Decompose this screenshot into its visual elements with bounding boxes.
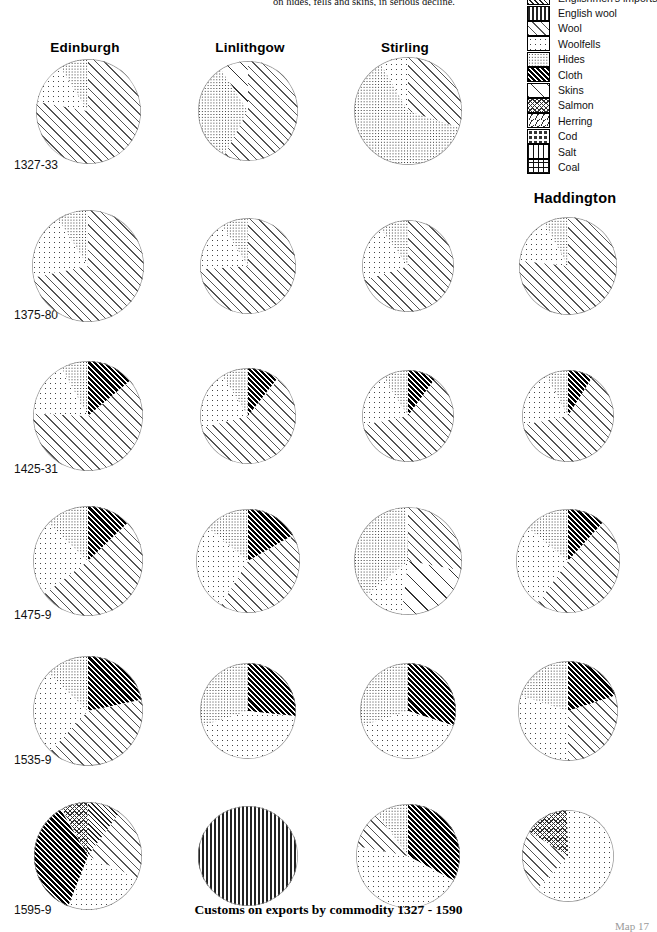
pie-outline: [198, 806, 298, 906]
legend-label: Cod: [558, 130, 577, 142]
legend-item: Salt: [527, 144, 657, 159]
legend-item: Skins: [527, 82, 657, 97]
partial-body-text: on hides, fells and skins, in serious de…: [184, 0, 544, 6]
pie-chart-haddington-1535-9: [518, 661, 618, 761]
legend-swatch-hides-icon: [527, 52, 550, 67]
legend-label: Coal: [558, 161, 580, 173]
legend-swatch-cod-icon: [527, 129, 550, 144]
pie-chart-edinburgh-1475-9: [33, 506, 143, 616]
pie-outline: [518, 661, 618, 761]
pie-outline: [32, 210, 144, 322]
pie-chart-edinburgh-1595-9: [34, 802, 142, 910]
legend-item: Salmon: [527, 98, 657, 113]
legend-swatch-woolfells-icon: [527, 36, 550, 51]
column-header-edinburgh: Edinburgh: [10, 40, 160, 55]
figure-caption: Customs on exports by commodity 1327 - 1…: [0, 902, 657, 918]
legend-swatch-wool-icon: [527, 21, 550, 36]
pie-outline: [519, 217, 617, 315]
pie-outline: [33, 361, 143, 471]
pie-chart-stirling-1535-9: [360, 663, 456, 759]
legend-label: Hides: [558, 53, 585, 65]
legend-item: Coal: [527, 159, 657, 174]
pie-chart-stirling-1375-80: [362, 220, 454, 312]
pie-outline: [200, 368, 296, 464]
pie-outline: [362, 220, 454, 312]
legend-item: Cod: [527, 129, 657, 144]
legend: Englishmen's imports English wool Wool W…: [527, 0, 657, 175]
pie-outline: [196, 509, 300, 613]
legend-item: Cloth: [527, 67, 657, 82]
pie-chart-linlithgow-1375-80: [200, 218, 296, 314]
pie-chart-stirling-1475-9: [354, 507, 462, 615]
column-header-linlithgow: Linlithgow: [175, 40, 325, 55]
pie-outline: [360, 663, 456, 759]
legend-label: English wool: [558, 7, 617, 19]
pie-chart-linlithgow-1475-9: [196, 509, 300, 613]
pie-chart-linlithgow-1595-9: [198, 806, 298, 906]
legend-item: Woolfells: [527, 36, 657, 51]
legend-item: Wool: [527, 21, 657, 36]
legend-label: Wool: [558, 22, 582, 34]
pie-chart-stirling-1595-9: [356, 804, 460, 908]
pie-outline: [200, 663, 296, 759]
column-header-haddington: Haddington: [500, 190, 650, 206]
pie-outline: [516, 509, 620, 613]
legend-swatch-salt-icon: [527, 144, 550, 159]
legend-swatch-engwool-icon: [527, 6, 550, 21]
legend-swatch-skins-icon: [527, 83, 550, 98]
legend-item: Herring: [527, 113, 657, 128]
pie-outline: [36, 59, 141, 164]
pie-chart-linlithgow-1535-9: [200, 663, 296, 759]
legend-label: Englishmen's imports: [558, 0, 657, 4]
pie-chart-haddington-1375-80: [519, 217, 617, 315]
pie-chart-haddington-1595-9: [522, 810, 614, 902]
pie-outline: [354, 57, 462, 165]
pie-chart-linlithgow-1327-33: [198, 61, 298, 161]
pie-outline: [522, 810, 614, 902]
pie-outline: [200, 218, 296, 314]
legend-swatch-herring-icon: [527, 113, 550, 128]
pie-outline: [33, 656, 143, 766]
column-header-stirling: Stirling: [330, 40, 480, 55]
pie-outline: [198, 61, 298, 161]
legend-swatch-salmon-icon: [527, 98, 550, 113]
legend-swatch-coal-icon: [527, 159, 550, 174]
pie-chart-edinburgh-1425-31: [33, 361, 143, 471]
pie-chart-linlithgow-1425-31: [200, 368, 296, 464]
pie-chart-stirling-1327-33: [354, 57, 462, 165]
pie-chart-edinburgh-1375-80: [32, 210, 144, 322]
pie-chart-edinburgh-1327-33: [36, 59, 141, 164]
pie-outline: [34, 802, 142, 910]
legend-label: Skins: [558, 84, 584, 96]
legend-label: Woolfells: [558, 38, 600, 50]
figure-reference: Map 17: [615, 920, 649, 932]
pie-outline: [362, 370, 454, 462]
legend-label: Herring: [558, 115, 592, 127]
pie-outline: [33, 506, 143, 616]
pie-outline: [354, 507, 462, 615]
pie-chart-edinburgh-1535-9: [33, 656, 143, 766]
pie-chart-stirling-1425-31: [362, 370, 454, 462]
pie-chart-haddington-1425-31: [522, 370, 614, 462]
legend-label: Salmon: [558, 99, 594, 111]
pie-outline: [356, 804, 460, 908]
legend-label: Salt: [558, 146, 576, 158]
pie-outline: [522, 370, 614, 462]
legend-swatch-cloth-icon: [527, 67, 550, 82]
pie-chart-haddington-1475-9: [516, 509, 620, 613]
legend-item: Hides: [527, 52, 657, 67]
legend-swatch-engimp-icon: [527, 0, 550, 5]
legend-label: Cloth: [558, 69, 583, 81]
legend-item: English wool: [527, 5, 657, 20]
